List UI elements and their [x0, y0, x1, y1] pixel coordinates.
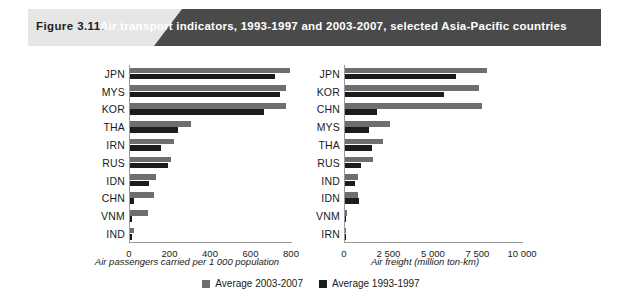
bar-earlier — [345, 163, 361, 169]
figure-number: Figure 3.11. — [36, 20, 104, 32]
bar-recent — [130, 174, 156, 180]
bar-recent — [345, 121, 390, 127]
bar-group: KOR — [130, 101, 292, 119]
bar-earlier — [345, 181, 355, 187]
bar-recent — [345, 157, 373, 163]
bar-recent — [345, 103, 482, 109]
bar-earlier — [130, 216, 132, 222]
bar-earlier — [130, 198, 134, 204]
bar-group: VNM — [345, 207, 523, 225]
bar-group: KOR — [345, 83, 523, 101]
bar-earlier — [130, 74, 275, 80]
category-label: JPN — [105, 68, 125, 80]
bar-earlier — [130, 127, 178, 133]
legend-item: Average 1993-1997 — [319, 278, 420, 289]
legend-label: Average 2003-2007 — [215, 278, 303, 289]
bar-earlier — [130, 181, 149, 187]
bar-earlier — [345, 127, 369, 133]
bar-earlier — [130, 234, 132, 240]
figure-title: Air transport indicators, 1993-1997 and … — [100, 20, 567, 32]
bar-group: RUS — [130, 154, 292, 172]
bar-group: JPN — [130, 65, 292, 83]
x-axis-caption-right: Air freight (million ton-km) — [300, 256, 550, 267]
bar-earlier — [130, 92, 280, 98]
category-label: JPN — [320, 68, 340, 80]
bar-earlier — [130, 163, 168, 169]
bar-recent — [345, 192, 358, 198]
category-label: THA — [103, 121, 125, 133]
category-label: IRN — [321, 228, 340, 240]
bar-group: CHN — [130, 190, 292, 208]
bar-recent — [130, 228, 134, 234]
category-label: RUS — [317, 157, 340, 169]
category-label: MYS — [317, 121, 340, 133]
bar-recent — [345, 210, 347, 216]
bar-group: IRN — [345, 225, 523, 243]
bar-recent — [345, 85, 479, 91]
category-label: CHN — [317, 103, 340, 115]
legend-swatch-earlier — [319, 280, 327, 288]
category-label: KOR — [317, 86, 340, 98]
figure-banner: Figure 3.11. Air transport indicators, 1… — [0, 9, 622, 46]
category-label: CHN — [102, 192, 125, 204]
bar-group: IDN — [345, 190, 523, 208]
bar-group: IND — [345, 172, 523, 190]
category-label: IND — [106, 228, 125, 240]
bar-earlier — [345, 74, 456, 80]
bar-recent — [130, 192, 154, 198]
bar-group: IRN — [130, 136, 292, 154]
bar-recent — [130, 210, 148, 216]
bar-recent — [345, 139, 383, 145]
bar-recent — [130, 139, 174, 145]
bar-recent — [345, 228, 346, 234]
bar-recent — [345, 174, 358, 180]
category-label: THA — [318, 139, 340, 151]
plot-area-right: JPNKORCHNMYSTHARUSINDIDNVNMIRN02 5005 00… — [344, 65, 522, 243]
bar-group: JPN — [345, 65, 523, 83]
chart-air-passengers: JPNMYSKORTHAIRNRUSIDNCHNVNMIND0200400600… — [62, 60, 312, 270]
bar-recent — [345, 68, 487, 74]
bar-earlier — [345, 145, 372, 151]
category-label: VNM — [101, 210, 125, 222]
bar-recent — [130, 157, 171, 163]
bar-group: IDN — [130, 172, 292, 190]
bar-recent — [130, 68, 290, 74]
x-axis-caption-left: Air passengers carried per 1 000 populat… — [62, 256, 312, 267]
bar-group: MYS — [130, 83, 292, 101]
bar-earlier — [345, 216, 346, 222]
category-label: MYS — [102, 86, 125, 98]
category-label: IDN — [106, 175, 125, 187]
category-label: RUS — [102, 157, 125, 169]
chart-legend: Average 2003-2007Average 1993-1997 — [0, 278, 622, 289]
bar-earlier — [130, 145, 161, 151]
category-label: IND — [321, 175, 340, 187]
legend-item: Average 2003-2007 — [202, 278, 303, 289]
bar-recent — [130, 103, 286, 109]
bar-group: THA — [345, 136, 523, 154]
plot-area-left: JPNMYSKORTHAIRNRUSIDNCHNVNMIND0200400600… — [129, 65, 291, 243]
bar-earlier — [345, 109, 377, 115]
bar-earlier — [345, 198, 359, 204]
bar-earlier — [345, 92, 444, 98]
bar-group: IND — [130, 225, 292, 243]
bar-earlier — [130, 109, 264, 115]
category-label: KOR — [102, 103, 125, 115]
bar-recent — [130, 121, 191, 127]
category-label: VNM — [316, 210, 340, 222]
chart-air-freight: JPNKORCHNMYSTHARUSINDIDNVNMIRN02 5005 00… — [300, 60, 550, 270]
bar-group: RUS — [345, 154, 523, 172]
category-label: IDN — [321, 192, 340, 204]
category-label: IRN — [106, 139, 125, 151]
legend-label: Average 1993-1997 — [332, 278, 420, 289]
bar-group: VNM — [130, 207, 292, 225]
bar-group: CHN — [345, 101, 523, 119]
bar-group: MYS — [345, 118, 523, 136]
legend-swatch-recent — [202, 280, 210, 288]
bar-group: THA — [130, 118, 292, 136]
bar-recent — [130, 85, 286, 91]
